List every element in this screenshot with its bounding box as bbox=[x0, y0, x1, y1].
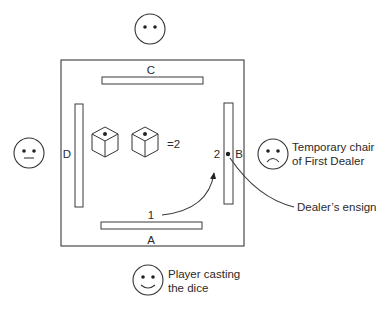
side-label-b: B bbox=[235, 148, 243, 160]
die-icon bbox=[132, 127, 158, 157]
die-icon bbox=[92, 127, 118, 157]
side-label-d: D bbox=[63, 148, 71, 160]
player-top-face-icon bbox=[135, 14, 165, 44]
dealer-ensign-icon bbox=[226, 152, 230, 156]
dealer-selection-diagram: C A D B =2 1 2 Dealer’s ensign Temp bbox=[0, 0, 390, 313]
caster-caption-line-1: Player casting bbox=[168, 268, 240, 280]
side-bar-a bbox=[101, 222, 202, 229]
player-left-face-icon bbox=[14, 138, 44, 168]
side-label-a: A bbox=[147, 234, 155, 246]
counting-arrow bbox=[162, 173, 214, 215]
caster-caption-line-2: the dice bbox=[168, 282, 208, 294]
first-dealer-caption-line-1: Temporary chair bbox=[292, 141, 375, 153]
dice-result: =2 bbox=[167, 138, 180, 150]
count-start-marker: 1 bbox=[148, 209, 154, 221]
side-bar-d bbox=[75, 104, 83, 207]
side-bar-c bbox=[102, 77, 203, 84]
side-label-c: C bbox=[147, 64, 155, 76]
ensign-label: Dealer’s ensign bbox=[297, 201, 376, 213]
first-dealer-caption-line-2: of First Dealer bbox=[292, 155, 364, 167]
count-end-marker: 2 bbox=[214, 148, 220, 160]
player-right-face-icon bbox=[258, 139, 288, 169]
ensign-leader-line bbox=[230, 158, 294, 207]
player-bottom-face-icon bbox=[133, 265, 163, 295]
